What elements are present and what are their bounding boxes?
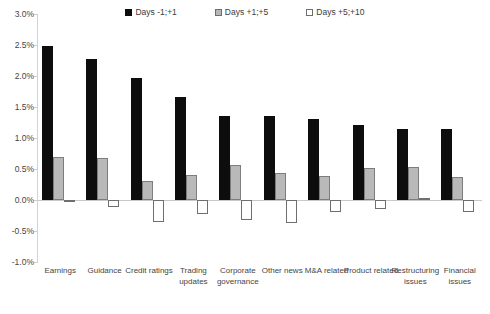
bar [108, 200, 119, 207]
bar [319, 176, 330, 200]
bar-group [263, 14, 297, 262]
bar [53, 157, 64, 200]
y-axis-label: 0.0% [2, 196, 34, 205]
y-axis-label: -0.5% [2, 227, 34, 236]
y-axis: 3.0%2.5%2.0%1.5%1.0%0.5%0.0%-0.5%-1.0% [0, 14, 34, 262]
bar [463, 200, 474, 212]
bar [64, 200, 75, 202]
bar [364, 168, 375, 200]
bar [241, 200, 252, 220]
y-axis-tick [34, 45, 38, 46]
y-axis-tick [34, 76, 38, 77]
bar-group [41, 14, 75, 262]
bar-group [308, 14, 342, 262]
bar-group [130, 14, 164, 262]
bar-group [396, 14, 430, 262]
y-axis-tick [34, 231, 38, 232]
bar-group [352, 14, 386, 262]
y-axis-label: 1.0% [2, 134, 34, 143]
bar [419, 198, 430, 200]
bar [452, 177, 463, 200]
bar [330, 200, 341, 212]
bar [219, 116, 230, 200]
plot-area [38, 14, 482, 262]
bar [42, 46, 53, 200]
bar-group [86, 14, 120, 262]
bar [230, 165, 241, 200]
bar [275, 173, 286, 200]
y-axis-tick [34, 169, 38, 170]
bar [86, 59, 97, 200]
y-axis-label: 0.5% [2, 165, 34, 174]
bar [408, 167, 419, 200]
bar [375, 200, 386, 209]
bar [441, 129, 452, 200]
y-axis-label: 2.0% [2, 72, 34, 81]
bar-chart: Days -1;+1 Days +1;+5 Days +5;+10 3.0%2.… [0, 0, 490, 314]
bar [197, 200, 208, 214]
y-axis-tick [34, 138, 38, 139]
y-axis-label: -1.0% [2, 258, 34, 267]
bar [153, 200, 164, 222]
y-axis-label: 2.5% [2, 41, 34, 50]
bar [353, 125, 364, 200]
bar [264, 116, 275, 200]
y-axis-label: 1.5% [2, 103, 34, 112]
bar-group [219, 14, 253, 262]
y-axis-tick [34, 262, 38, 263]
y-axis-tick [34, 14, 38, 15]
y-axis-label: 3.0% [2, 10, 34, 19]
bar-group [174, 14, 208, 262]
bar [175, 97, 186, 200]
bar [131, 78, 142, 200]
bar-group [441, 14, 475, 262]
bar [97, 158, 108, 200]
bar [308, 119, 319, 200]
y-axis-tick [34, 107, 38, 108]
bar [142, 181, 153, 200]
bar [286, 200, 297, 223]
bar [186, 175, 197, 200]
x-axis-category-label: Financial issues [432, 266, 488, 287]
x-axis-categories: EarningsGuidanceCredit ratingsTrading up… [38, 266, 482, 310]
bar [397, 129, 408, 200]
